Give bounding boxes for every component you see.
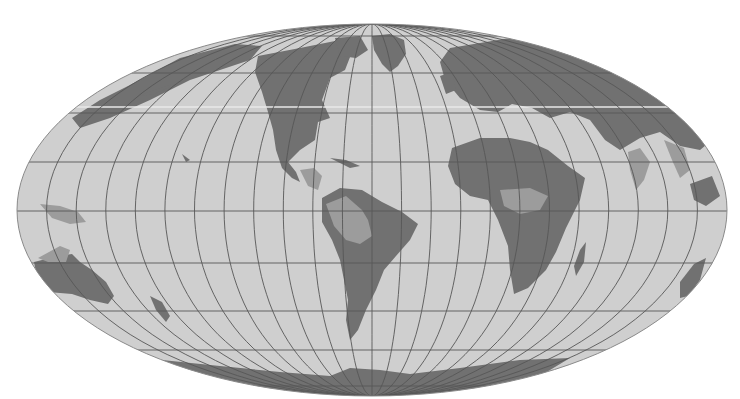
mollweide-map bbox=[0, 0, 740, 399]
world-map bbox=[0, 0, 740, 399]
